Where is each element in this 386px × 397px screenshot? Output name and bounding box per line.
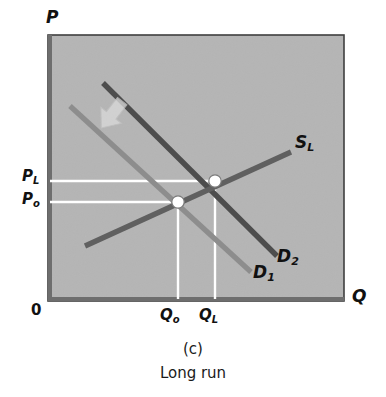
equilibrium-marker-long-run: [209, 175, 221, 187]
y-tick-label-pl-sub: L: [33, 175, 39, 186]
y-tick-label-po-text: P: [22, 190, 33, 208]
curve-label-demand-d1-sub: 1: [267, 271, 275, 284]
x-tick-label-qo-text: Q: [160, 306, 173, 324]
x-axis-label: Q: [352, 288, 366, 305]
x-tick-label-ql-sub: L: [212, 314, 218, 325]
equilibrium-marker-initial: [172, 196, 184, 208]
x-tick-label-ql: QL: [199, 308, 218, 323]
y-tick-label-pl: PL: [22, 169, 39, 184]
curve-label-demand-d2: D2: [277, 248, 299, 265]
origin-label: 0: [31, 303, 41, 318]
y-axis-label: P: [46, 9, 58, 26]
supply-demand-chart: [0, 0, 386, 397]
curve-label-demand-d1-text: D: [253, 262, 267, 282]
curve-label-supply-sl-sub: L: [307, 141, 314, 154]
x-tick-label-qo: Qo: [160, 308, 180, 323]
y-tick-label-po: Po: [22, 192, 40, 207]
curve-label-supply-sl: SL: [295, 134, 314, 151]
curve-label-demand-d2-text: D: [277, 246, 291, 266]
plot-area-grain: [48, 35, 344, 301]
y-tick-label-pl-text: P: [22, 167, 33, 185]
panel-letter-caption: (c): [0, 342, 386, 357]
y-tick-label-po-sub: o: [33, 198, 40, 209]
x-tick-label-qo-sub: o: [173, 314, 180, 325]
curve-label-demand-d1: D1: [253, 264, 275, 281]
x-tick-label-ql-text: Q: [199, 306, 212, 324]
curve-label-demand-d2-sub: 2: [291, 255, 299, 268]
panel-title-caption: Long run: [0, 366, 386, 381]
curve-label-supply-sl-text: S: [295, 132, 307, 152]
